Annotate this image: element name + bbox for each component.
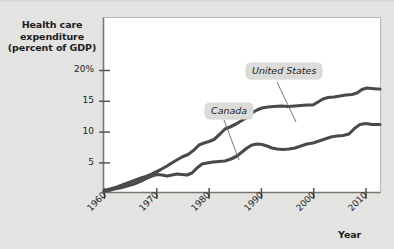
y-tick-label-20: 20% [58, 64, 94, 74]
y-tick-label-5: 5 [58, 157, 94, 167]
series-label-united-states: United States [246, 63, 322, 79]
chart-figure: Health care expenditure (percent of GDP)… [0, 0, 394, 249]
y-axis-title-line-2: expenditure [2, 31, 102, 43]
y-tick-label-15: 15 [58, 95, 94, 105]
y-axis-title: Health care expenditure (percent of GDP) [2, 19, 102, 54]
x-axis-title: Year [338, 229, 386, 241]
y-axis-title-line-1: Health care [2, 19, 102, 31]
y-axis-title-line-3: (percent of GDP) [2, 42, 102, 54]
y-tick-label-10: 10 [58, 126, 94, 136]
series-label-canada: Canada [205, 103, 253, 119]
